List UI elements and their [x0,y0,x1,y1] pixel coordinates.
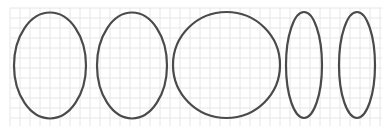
diagram-canvas [0,0,386,134]
ellipse-diagram [0,0,386,134]
